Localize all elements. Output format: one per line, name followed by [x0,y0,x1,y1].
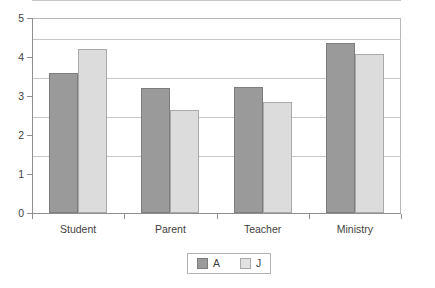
bar-ministry-j [355,54,384,213]
legend-entry-a: A [197,258,220,269]
bar-teacher-j [263,102,292,213]
x-axis-tick [124,214,125,219]
y-axis-tick-label: 3 [0,91,24,101]
legend-entry-j: J [240,258,261,269]
x-axis-label-ministry: Ministry [309,223,401,235]
gridline [32,0,401,1]
legend-label-j: J [256,258,261,269]
y-axis-tick-label: 5 [0,13,24,23]
bar-parent-a [141,88,170,213]
legend-label-a: A [213,258,220,269]
bar-student-j [78,49,107,213]
x-axis-tick [401,214,402,219]
bar-chart: 012345 StudentParentTeacherMinistry A J [0,0,435,288]
bar-student-a [49,73,78,213]
bars-layer [33,19,400,213]
y-axis-tick-label: 1 [0,169,24,179]
y-axis-tick-label: 4 [0,52,24,62]
x-axis-tick [32,214,33,219]
x-axis-label-parent: Parent [124,223,216,235]
y-axis-tick-label: 0 [0,208,24,218]
legend-swatch-icon-j [240,258,251,269]
legend: A J [187,253,271,274]
legend-swatch-icon-a [197,258,208,269]
bar-parent-j [170,110,199,213]
x-axis-label-teacher: Teacher [217,223,309,235]
x-axis-label-student: Student [32,223,124,235]
bar-teacher-a [234,87,263,213]
x-axis-tick [309,214,310,219]
bar-ministry-a [326,43,355,213]
y-axis-tick-label: 2 [0,130,24,140]
x-axis-tick [217,214,218,219]
